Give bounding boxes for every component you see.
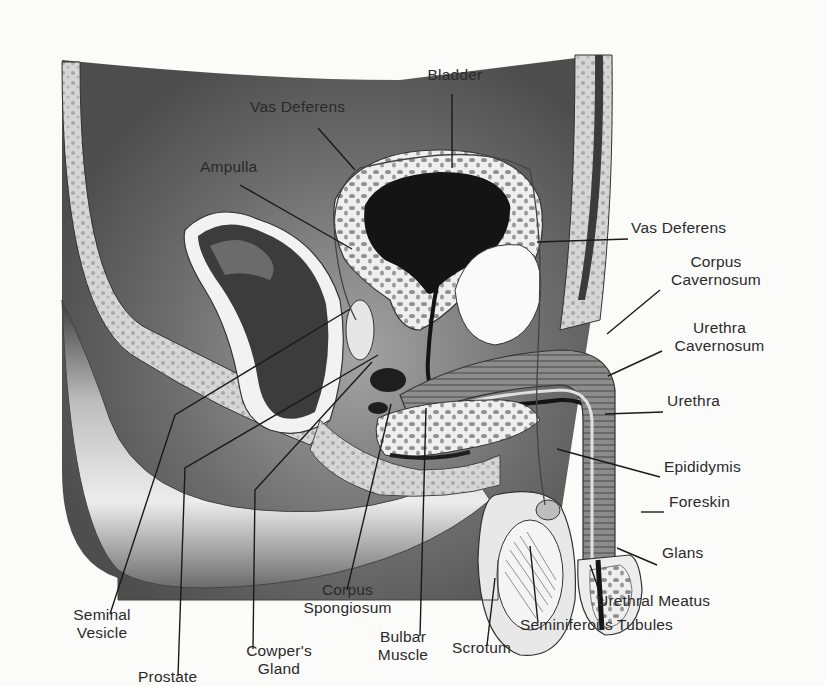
leader-line-corpus-cavernosum [607, 290, 660, 334]
label-text: Epididymis [664, 458, 741, 476]
label-text: Scrotum [452, 639, 511, 657]
leader-line-urethra-cavernosum [608, 351, 662, 376]
label-text: Spongiosum [295, 599, 400, 617]
label-text: Ampulla [200, 158, 257, 176]
label-bulbar-muscle: BulbarMuscle [368, 628, 438, 664]
label-text: Cowper's [238, 642, 320, 660]
label-text: Seminiferous Tubules [520, 616, 673, 634]
label-vas-deferens-top: Vas Deferens [250, 98, 345, 116]
label-text: Gland [238, 660, 320, 678]
label-epididymis: Epididymis [664, 458, 741, 476]
label-text: Vas Deferens [250, 98, 345, 116]
label-seminal-vesicle: SeminalVesicle [66, 606, 138, 642]
label-text: Urethra [667, 392, 720, 410]
label-ampulla: Ampulla [200, 158, 257, 176]
label-cowpers-gland: Cowper'sGland [238, 642, 320, 678]
label-text: Corpus [660, 253, 772, 271]
label-seminiferous-tubules: Seminiferous Tubules [520, 616, 673, 634]
label-text: Urethra [662, 319, 777, 337]
label-corpus-spongiosum: CorpusSpongiosum [295, 581, 400, 617]
label-text: Cavernosum [662, 337, 777, 355]
label-text: Bulbar [368, 628, 438, 646]
label-text: Prostate [138, 668, 197, 686]
label-text: Vas Deferens [631, 219, 726, 237]
label-text: Urethral Meatus [597, 592, 710, 610]
label-vas-deferens-right: Vas Deferens [631, 219, 726, 237]
label-text: Seminal [66, 606, 138, 624]
label-text: Cavernosum [660, 271, 772, 289]
label-text: Corpus [295, 581, 400, 599]
label-urethral-meatus: Urethral Meatus [597, 592, 710, 610]
label-text: Foreskin [669, 493, 730, 511]
label-foreskin: Foreskin [669, 493, 730, 511]
label-urethra: Urethra [667, 392, 720, 410]
label-prostate: Prostate [138, 668, 197, 686]
label-scrotum: Scrotum [452, 639, 511, 657]
label-bladder: Bladder [420, 66, 490, 84]
label-text: Vesicle [66, 624, 138, 642]
label-text: Muscle [368, 646, 438, 664]
label-corpus-cavernosum: CorpusCavernosum [660, 253, 772, 289]
label-glans: Glans [662, 544, 704, 562]
label-urethra-cavernosum: UrethraCavernosum [662, 319, 777, 355]
label-text: Glans [662, 544, 704, 562]
label-text: Bladder [420, 66, 490, 84]
